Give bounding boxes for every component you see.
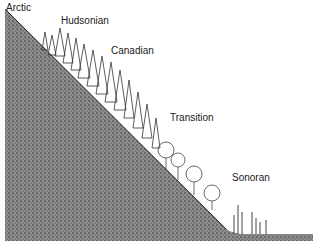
zone-label-canadian: Canadian [111,45,154,56]
mountain-slope-illustration [0,0,321,241]
cacti [234,205,266,234]
mountain-ground [5,9,313,241]
zone-label-transition: Transition [170,112,214,123]
zone-label-arctic: Arctic [6,2,31,13]
life-zones-diagram: Arctic Hudsonian Canadian Transition Son… [0,0,321,241]
zone-label-hudsonian: Hudsonian [61,15,109,26]
zone-label-sonoran: Sonoran [232,172,270,183]
